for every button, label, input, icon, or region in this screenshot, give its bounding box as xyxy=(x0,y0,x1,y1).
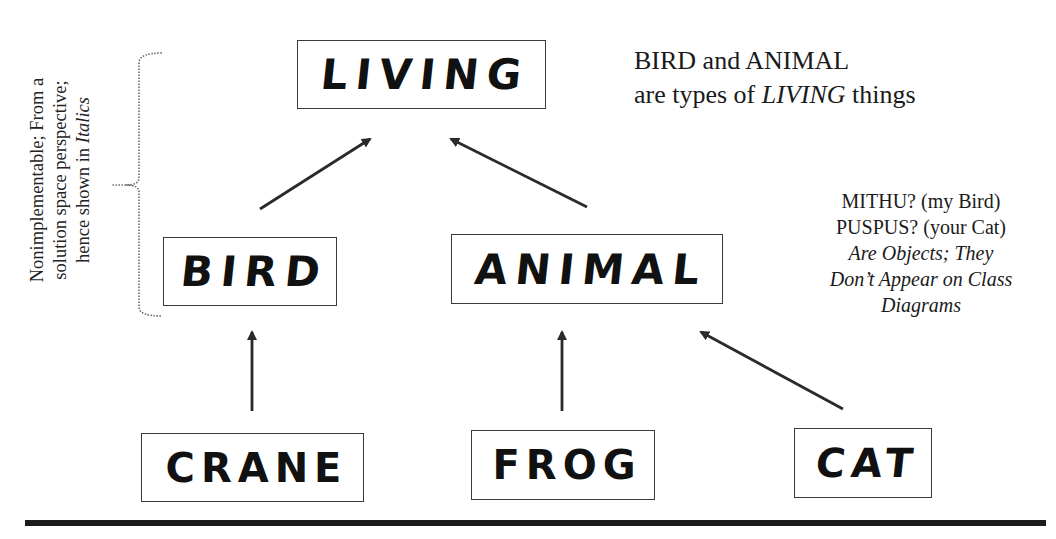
arrow-animal-to-living xyxy=(451,139,587,207)
note-top-line-2: are types of LIVING things xyxy=(634,78,916,112)
side-note-text: Nonimplementable; From a solution space … xyxy=(26,35,95,325)
class-label-bird: BIRD xyxy=(170,247,330,296)
class-box-animal: ANIMAL xyxy=(451,234,723,304)
class-label-cat: CAT xyxy=(805,440,920,486)
note-right-line-1: MITHU? (my Bird) xyxy=(790,188,1052,214)
class-box-crane: CRANE xyxy=(141,433,364,502)
side-note-line-2: solution space perspective; xyxy=(49,35,72,325)
class-label-frog: FROG xyxy=(485,442,642,488)
side-note-line-3: hence shown in Italics xyxy=(72,35,95,325)
class-diagram-canvas: LIVING BIRD ANIMAL CRANE FROG CAT BIRD a… xyxy=(0,0,1056,539)
arrow-bird-to-living xyxy=(260,139,370,209)
note-top-line-2-italic: LIVING xyxy=(762,80,846,109)
class-label-crane: CRANE xyxy=(158,445,348,491)
side-note-line-3-italic: Italics xyxy=(73,97,93,143)
class-label-animal: ANIMAL xyxy=(464,245,710,294)
note-living-types: BIRD and ANIMAL are types of LIVING thin… xyxy=(634,44,916,112)
note-right-line-5: Diagrams xyxy=(790,292,1052,318)
note-top-line-2-pre: are types of xyxy=(634,80,762,109)
side-note-line-3-pre: hence shown in xyxy=(73,143,93,263)
note-top-line-1: BIRD and ANIMAL xyxy=(634,44,916,78)
class-box-cat: CAT xyxy=(794,428,932,498)
side-note-nonimplementable: Nonimplementable; From a solution space … xyxy=(18,35,102,325)
class-label-living: LIVING xyxy=(311,50,532,99)
arrow-cat-to-animal xyxy=(701,332,843,409)
class-box-living: LIVING xyxy=(297,40,546,109)
class-box-bird: BIRD xyxy=(163,237,337,306)
curly-bracket xyxy=(111,53,162,316)
bottom-divider-rule xyxy=(25,520,1046,526)
note-top-line-2-post: things xyxy=(846,80,916,109)
class-box-frog: FROG xyxy=(471,430,655,500)
note-right-line-2: PUSPUS? (your Cat) xyxy=(790,214,1052,240)
note-right-line-4: Don’t Appear on Class xyxy=(790,266,1052,292)
note-right-line-3: Are Objects; They xyxy=(790,240,1052,266)
note-objects: MITHU? (my Bird) PUSPUS? (your Cat) Are … xyxy=(790,188,1052,318)
side-note-line-1: Nonimplementable; From a xyxy=(26,35,49,325)
